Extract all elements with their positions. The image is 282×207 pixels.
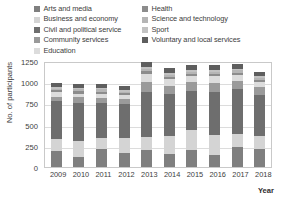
x-axis-tick-label: 2017 — [232, 170, 243, 181]
legend-swatch-icon — [34, 48, 40, 54]
bar-segment — [141, 150, 152, 167]
bar — [96, 84, 107, 167]
bar-segment — [51, 101, 62, 138]
bar — [209, 65, 220, 167]
legend-swatch-icon — [142, 27, 148, 33]
bar-segment — [209, 92, 220, 135]
x-axis-tick-label: 2009 — [50, 170, 61, 181]
bar-segment — [254, 149, 265, 167]
legend-swatch-icon — [142, 37, 148, 43]
bar-segment — [141, 74, 152, 82]
bar-segment — [164, 136, 175, 155]
legend-swatch-icon — [142, 6, 148, 12]
bar-segment — [96, 149, 107, 167]
x-axis-tick-label: 2013 — [141, 170, 152, 181]
bar — [186, 65, 197, 167]
bar-segment — [96, 103, 107, 138]
y-axis-tick-label: 500 — [25, 121, 38, 130]
legend-swatch-icon — [34, 27, 40, 33]
legend-item-label: Business and economy — [44, 14, 118, 24]
bar-segment — [186, 150, 197, 167]
bar-segment — [51, 139, 62, 151]
bar-segment — [254, 95, 265, 136]
bar-segment — [232, 89, 243, 134]
y-axis-tick-label: 1000 — [21, 79, 38, 88]
legend-item-label: Science and technology — [152, 14, 228, 24]
bar-segment — [186, 91, 197, 130]
bar-segment — [73, 157, 84, 167]
legend-item-label: Civil and political service — [44, 25, 122, 35]
bar-segment — [209, 83, 220, 92]
x-axis-tick-label: 2016 — [209, 170, 220, 181]
legend-item-label: Arts and media — [44, 4, 92, 14]
bar-segment — [209, 135, 220, 155]
bar-segment — [119, 138, 130, 153]
bar-segment — [254, 87, 265, 95]
bar — [232, 64, 243, 167]
bar-segment — [232, 81, 243, 89]
bar-segment — [232, 147, 243, 167]
bar-segment — [51, 151, 62, 167]
bar-segment — [186, 130, 197, 150]
x-axis-tick-label: 2012 — [118, 170, 129, 181]
bar — [254, 72, 265, 167]
legend-item[interactable]: Community services — [34, 35, 142, 45]
bar-segment — [119, 104, 130, 137]
legend-item-label: Community services — [44, 35, 109, 45]
legend-swatch-icon — [142, 17, 148, 23]
bar-segment — [254, 136, 265, 150]
bar-segment — [141, 137, 152, 150]
x-axis-ticks: 2009201020112012201320142015201620172018 — [44, 170, 272, 181]
bar-segment — [73, 141, 84, 157]
bar-segment — [232, 134, 243, 147]
bar — [164, 68, 175, 167]
bar-segment — [209, 155, 220, 167]
legend-item[interactable]: Arts and media — [34, 4, 142, 14]
bar-segment — [96, 138, 107, 149]
y-axis-tick-label: 1250 — [21, 58, 38, 67]
bar-segment — [141, 82, 152, 92]
x-axis-title: Year — [258, 186, 274, 195]
x-axis-tick-label: 2018 — [255, 170, 266, 181]
bar-segment — [119, 153, 130, 167]
legend-item[interactable]: Civil and political service — [34, 25, 142, 35]
bar-segment — [73, 103, 84, 141]
bar — [73, 84, 84, 167]
y-axis-tick-label: 750 — [25, 100, 38, 109]
legend-item[interactable]: Business and economy — [34, 14, 142, 24]
legend-item[interactable]: Health — [142, 4, 278, 14]
y-axis-ticks: 025050075010001250 — [0, 62, 42, 168]
legend-swatch-icon — [34, 17, 40, 23]
legend-swatch-icon — [34, 37, 40, 43]
bar-segment — [164, 154, 175, 167]
bar — [141, 62, 152, 167]
bar-segment — [186, 82, 197, 91]
y-axis-tick-label: 0 — [34, 164, 38, 173]
legend-item[interactable]: Voluntary and local services — [142, 35, 278, 45]
legend-item[interactable]: Science and technology — [142, 14, 278, 24]
stacked-bar-chart: Arts and mediaHealthBusiness and economy… — [0, 0, 282, 207]
bar-segment — [141, 92, 152, 137]
bar-group — [45, 63, 271, 167]
plot-area — [44, 62, 272, 168]
x-axis-tick-label: 2014 — [164, 170, 175, 181]
legend-item[interactable]: Education — [34, 46, 142, 56]
chart-legend: Arts and mediaHealthBusiness and economy… — [34, 4, 278, 56]
x-axis-tick-label: 2015 — [187, 170, 198, 181]
bar-segment — [164, 86, 175, 94]
y-axis-tick-label: 250 — [25, 142, 38, 151]
legend-item-label: Health — [152, 4, 173, 14]
bar-segment — [164, 94, 175, 136]
legend-item-label: Education — [44, 46, 76, 56]
x-axis-tick-label: 2010 — [73, 170, 84, 181]
x-axis-tick-label: 2011 — [95, 170, 106, 181]
bar — [51, 83, 62, 167]
legend-swatch-icon — [34, 6, 40, 12]
legend-item-label: Sport — [152, 25, 169, 35]
legend-item[interactable]: Sport — [142, 25, 278, 35]
legend-item-label: Voluntary and local services — [152, 35, 241, 45]
bar — [119, 86, 130, 167]
